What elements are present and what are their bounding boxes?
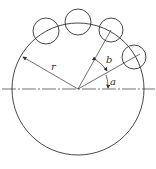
diagram-canvas: r b a [0,0,156,169]
angle-arc-a [106,75,108,88]
angle-label-b: b [106,54,112,65]
angle-label-a: a [110,76,116,87]
small-circle-2 [65,9,91,35]
radius-label: r [51,61,57,72]
